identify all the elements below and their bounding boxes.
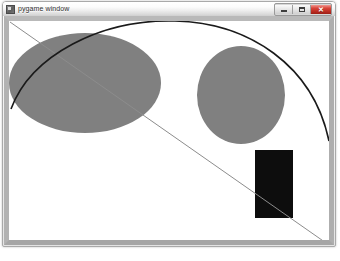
pygame-drawing-surface[interactable] (9, 21, 329, 240)
window-title: pygame window (18, 2, 70, 16)
shape-canvas (9, 21, 329, 240)
rectangle-black (255, 150, 293, 218)
close-icon: ✕ (318, 6, 324, 13)
title-bar[interactable]: pygame window ✕ (3, 2, 335, 16)
minimize-button[interactable] (275, 5, 293, 14)
canvas-bevel (4, 16, 334, 245)
ellipse-left (9, 33, 161, 133)
pygame-window: pygame window ✕ (2, 1, 336, 247)
maximize-button[interactable] (293, 5, 311, 14)
close-button[interactable]: ✕ (311, 5, 331, 14)
pygame-app-icon (6, 5, 15, 14)
maximize-icon (299, 7, 305, 12)
minimize-icon (281, 10, 287, 12)
ellipse-right (197, 46, 285, 144)
window-controls: ✕ (274, 3, 332, 16)
